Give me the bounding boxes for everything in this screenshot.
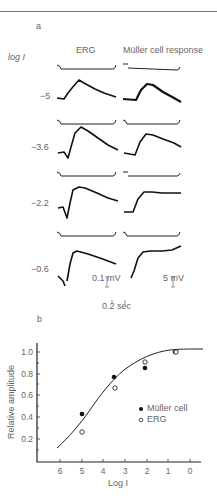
svg-text:1.0: 1.0 <box>21 347 33 357</box>
svg-text:0.4: 0.4 <box>21 412 33 422</box>
svg-text:0.8: 0.8 <box>21 369 33 379</box>
svg-text:4: 4 <box>101 466 106 476</box>
svg-text:0.2: 0.2 <box>21 434 33 444</box>
svg-text:6: 6 <box>58 466 63 476</box>
legend-filled-circle-icon <box>139 407 143 411</box>
svg-text:0: 0 <box>188 466 193 476</box>
y-axis-label: Relative amplitude <box>6 365 16 439</box>
x-axis-label: Log I <box>108 478 128 488</box>
panel-b-chart: 1.0 0.8 0.6 0.4 0.2 6 5 4 3 2 1 0 Log I … <box>0 0 217 499</box>
svg-text:0.6: 0.6 <box>21 390 33 400</box>
legend-erg: ERG <box>147 414 167 424</box>
legend-open-circle-icon <box>139 418 143 422</box>
svg-text:3: 3 <box>123 466 128 476</box>
fit-curve <box>57 349 203 448</box>
svg-text:5: 5 <box>80 466 85 476</box>
svg-text:2: 2 <box>145 466 150 476</box>
legend-muller: Müller cell <box>147 403 188 413</box>
svg-text:1: 1 <box>166 466 171 476</box>
